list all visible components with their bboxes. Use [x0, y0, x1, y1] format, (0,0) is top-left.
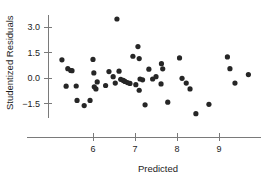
data-point [127, 81, 132, 86]
data-point [95, 79, 100, 84]
x-axis: 6789 [27, 133, 261, 154]
data-point [140, 77, 145, 82]
residuals-scatter-chart: 3.01.50.0−1.5 6789 Studentized Residuals… [0, 0, 268, 179]
data-point [193, 111, 198, 116]
data-point [59, 57, 64, 62]
data-point [135, 44, 140, 49]
data-point [165, 100, 170, 105]
data-points-group [59, 16, 251, 116]
data-point [74, 83, 79, 88]
data-point [111, 74, 116, 79]
data-point [137, 56, 142, 61]
data-point [116, 69, 121, 74]
y-axis: 3.01.50.0−1.5 [22, 15, 52, 118]
data-point [177, 55, 182, 60]
data-point [91, 70, 96, 75]
data-point [103, 83, 108, 88]
y-axis-tick-label: 1.5 [27, 48, 40, 58]
data-point [69, 68, 74, 73]
data-point [113, 81, 118, 86]
data-point [142, 102, 147, 107]
data-point [93, 86, 98, 91]
data-point [82, 103, 87, 108]
x-axis-tick-label: 7 [132, 144, 137, 154]
data-point [232, 81, 237, 86]
data-point [146, 67, 151, 72]
data-point [179, 76, 184, 81]
data-point [206, 102, 211, 107]
data-point [74, 98, 79, 103]
data-point [159, 61, 164, 66]
data-point [137, 88, 142, 93]
data-point [133, 82, 138, 87]
data-point [160, 66, 165, 71]
data-point [64, 84, 69, 89]
x-axis-title: Predicted [138, 163, 178, 174]
data-point [225, 54, 230, 59]
scatter-plot-screenshot: 3.01.50.0−1.5 6789 Studentized Residuals… [0, 0, 268, 179]
y-axis-tick-label: 0.0 [27, 73, 40, 83]
y-axis-title: Studentized Residuals [4, 15, 15, 110]
data-point [90, 57, 95, 62]
data-point [114, 16, 119, 21]
data-point [158, 81, 163, 86]
data-point [106, 69, 111, 74]
x-axis-tick-label: 8 [174, 144, 179, 154]
x-axis-tick-label: 6 [90, 144, 95, 154]
data-point [227, 66, 232, 71]
data-point [246, 72, 251, 77]
y-axis-tick-label: −1.5 [22, 99, 40, 109]
y-axis-tick-label: 3.0 [27, 22, 40, 32]
data-point [153, 74, 158, 79]
x-axis-tick-label: 9 [216, 144, 221, 154]
data-point [184, 81, 189, 86]
data-point [187, 86, 192, 91]
data-point [130, 54, 135, 59]
data-point [87, 98, 92, 103]
